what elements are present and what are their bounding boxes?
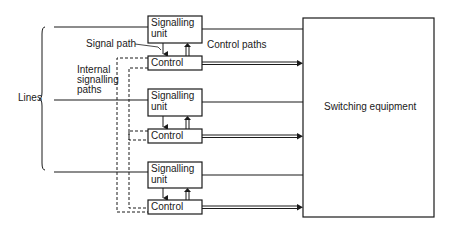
internal-path-lower (129, 131, 148, 208)
internal-path-inner-1 (129, 68, 148, 140)
signal-path-leader (135, 44, 161, 50)
signal-path-label: Signal path (86, 39, 136, 49)
control-path-arrow-3 (184, 188, 191, 192)
control-output-arrow-1 (297, 60, 303, 67)
diagram-canvas (0, 0, 450, 229)
lines-label: Lines (18, 93, 42, 103)
switching-equipment-label: Switching equipment (324, 102, 416, 112)
control-output-arrow-3 (297, 204, 303, 211)
signalling-unit-1-label-1: Signalling (151, 18, 194, 28)
control-output-arrow-2 (297, 133, 303, 140)
switching-equipment-box (303, 18, 434, 217)
control-1-label: Control (151, 58, 183, 68)
signalling-unit-2-label-1: Signalling (151, 91, 194, 101)
control-2-label: Control (151, 131, 183, 141)
signalling-unit-3-label-1: Signalling (151, 164, 194, 174)
internal-signalling-label-3: paths (77, 85, 101, 95)
internal-path-outer (117, 58, 148, 212)
control-3-label: Control (151, 202, 183, 212)
signalling-unit-3-label-2: unit (151, 175, 167, 185)
signalling-unit-1-label-2: unit (151, 29, 167, 39)
signalling-unit-2-label-2: unit (151, 102, 167, 112)
control-paths-label: Control paths (207, 40, 266, 50)
